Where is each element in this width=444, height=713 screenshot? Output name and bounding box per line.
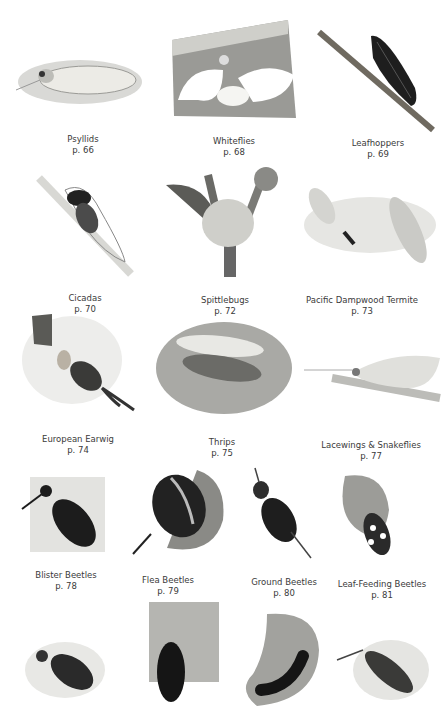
thrips-illustration-icon (154, 318, 294, 418)
entry-weevil[interactable] (0, 600, 115, 713)
blister-beetle-illustration-icon (18, 465, 123, 560)
entry-name: Leaf-Feeding Beetles (338, 579, 426, 590)
bark-beetle-illustration-icon (145, 602, 220, 712)
lacewing-illustration-icon (304, 350, 442, 410)
cicada-illustration-icon (35, 170, 135, 280)
flea-beetle-illustration-icon (127, 460, 227, 560)
entry-page: p. 79 (142, 586, 194, 597)
leafhopper-illustration-icon (315, 28, 440, 133)
ground-beetle-illustration-icon (239, 468, 319, 568)
entry-thrips[interactable]: Thrips p. 75 (150, 310, 300, 465)
psyllid-illustration-icon (10, 50, 150, 110)
entry-page: p. 74 (42, 445, 114, 456)
entry-name: Lacewings & Snakeflies (321, 440, 421, 451)
entry-cicadas[interactable]: Cicadas p. 70 (0, 160, 150, 310)
entry-bark-beetle[interactable] (115, 600, 225, 713)
entry-name: Whiteflies (213, 136, 255, 147)
entry-page: p. 69 (352, 149, 405, 160)
entry-page: p. 66 (67, 145, 98, 156)
entry-whiteflies[interactable]: Whiteflies p. 68 (150, 0, 300, 160)
entry-name: Flea Beetles (142, 575, 194, 586)
entry-name: Leafhoppers (352, 138, 405, 149)
entry-name: Thrips (209, 437, 235, 448)
leaf-beetle-illustration-icon (325, 470, 435, 570)
entry-name: Cicadas (68, 293, 101, 304)
entry-page: p. 78 (35, 581, 96, 592)
entry-name: Spittlebugs (201, 295, 249, 306)
entry-psyllids[interactable]: Psyllids p. 66 (0, 0, 150, 160)
entry-page: p. 80 (251, 588, 317, 599)
whitefly-illustration-icon (168, 20, 298, 120)
entry-leaf-feeding-beetles[interactable]: Leaf-Feeding Beetles p. 81 (325, 460, 444, 595)
entry-european-earwig[interactable]: European Earwig p. 74 (0, 310, 150, 465)
weevil-illustration-icon (20, 630, 110, 710)
entry-click-beetle[interactable] (325, 600, 444, 713)
entry-name: Blister Beetles (35, 570, 96, 581)
entry-ground-beetles[interactable]: Ground Beetles p. 80 (225, 460, 325, 595)
entry-flea-beetles[interactable]: Flea Beetles p. 79 (115, 460, 225, 595)
entry-lacewings-snakeflies[interactable]: Lacewings & Snakeflies p. 77 (300, 310, 444, 465)
entry-page: p. 68 (213, 147, 255, 158)
termite-illustration-icon (300, 180, 440, 275)
entry-spittlebugs[interactable]: Spittlebugs p. 72 (150, 160, 300, 310)
click-beetle-illustration-icon (337, 620, 432, 710)
entry-pacific-dampwood-termite[interactable]: Pacific Dampwood Termite p. 73 (300, 160, 444, 310)
entry-name: Ground Beetles (251, 577, 317, 588)
spittlebug-illustration-icon (164, 165, 284, 280)
entry-name: European Earwig (42, 434, 114, 445)
entry-blister-beetles[interactable]: Blister Beetles p. 78 (0, 460, 115, 595)
earwig-illustration-icon (22, 310, 137, 415)
entry-name: Psyllids (67, 134, 98, 145)
entry-larva[interactable] (225, 600, 325, 713)
larva-illustration-icon (237, 610, 322, 705)
entry-name: Pacific Dampwood Termite (306, 295, 418, 306)
entry-page: p. 75 (209, 448, 235, 459)
entry-leafhoppers[interactable]: Leafhoppers p. 69 (300, 0, 444, 160)
